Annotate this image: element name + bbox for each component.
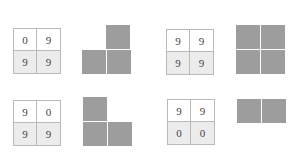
shape-block — [261, 50, 285, 74]
grid-cell: 9 — [37, 123, 60, 145]
grid-cell: 0 — [191, 122, 214, 144]
number-grid-4: 9 9 0 0 — [167, 99, 215, 145]
grid-cell: 9 — [190, 52, 213, 74]
shape-block — [261, 25, 285, 49]
grid-cell: 9 — [14, 123, 37, 145]
shape-block — [83, 97, 107, 121]
number-grid-3: 9 0 9 9 — [13, 100, 61, 146]
grid-cell: 9 — [14, 51, 37, 73]
grid-cell: 9 — [167, 52, 190, 74]
shape-block — [236, 50, 260, 74]
grid-cell: 9 — [37, 51, 60, 73]
grid-cell: 9 — [190, 30, 213, 52]
shape-block — [237, 99, 261, 123]
number-grid-1: 0 9 9 9 — [13, 28, 61, 74]
grid-cell: 0 — [14, 29, 37, 51]
grid-cell: 9 — [168, 100, 191, 122]
number-grid-2: 9 9 9 9 — [166, 29, 214, 75]
grid-cell: 9 — [14, 101, 37, 123]
shape-block — [83, 122, 107, 146]
grid-cell: 9 — [37, 29, 60, 51]
grid-cell: 9 — [167, 30, 190, 52]
shape-block — [262, 99, 286, 123]
shape-block — [82, 50, 106, 74]
grid-cell: 9 — [191, 100, 214, 122]
grid-cell: 0 — [168, 122, 191, 144]
shape-block — [108, 122, 132, 146]
shape-block — [107, 50, 131, 74]
shape-block — [236, 25, 260, 49]
shape-block — [106, 25, 130, 49]
grid-cell: 0 — [37, 101, 60, 123]
